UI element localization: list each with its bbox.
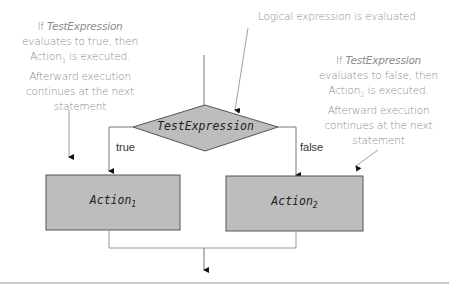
decision-label: TestExpression bbox=[133, 119, 278, 133]
callout-arrow-right bbox=[356, 150, 378, 166]
note-left-line1-pre: If bbox=[37, 20, 47, 32]
action-2-subscript: 2 bbox=[313, 201, 318, 210]
note-left: If TestExpression evaluates to true, the… bbox=[5, 19, 155, 114]
callout-arrow-decision bbox=[235, 28, 248, 110]
note-right-line6: statement bbox=[308, 133, 449, 148]
note-top-center: Logical expression is evaluated bbox=[258, 9, 448, 24]
note-right-line4: Afterward execution bbox=[308, 103, 449, 118]
action-1-label: Action1 bbox=[46, 193, 180, 209]
action-2-label: Action2 bbox=[226, 194, 363, 210]
note-right-line1-em: TestExpression bbox=[345, 54, 421, 66]
action-1-subscript: 1 bbox=[131, 200, 136, 209]
decision-label-text: TestExpression bbox=[157, 119, 254, 133]
note-left-line2: evaluates to true, then bbox=[5, 34, 155, 49]
note-left-line4: Afterward execution bbox=[5, 69, 155, 84]
note-top-center-text: Logical expression is evaluated bbox=[258, 10, 416, 22]
false-branch-label: false bbox=[300, 141, 323, 153]
bottom-divider bbox=[0, 282, 449, 284]
note-left-line3-post: is executed. bbox=[66, 50, 130, 62]
note-left-line3-pre: Action bbox=[30, 50, 62, 62]
note-right: If TestExpression evaluates to false, th… bbox=[308, 53, 449, 148]
action-2-name: Action bbox=[271, 194, 313, 208]
false-label-text: false bbox=[300, 141, 323, 153]
note-left-line5: continues at the next bbox=[5, 84, 155, 99]
note-left-line6: statement bbox=[5, 99, 155, 114]
note-right-line3-post: is executed. bbox=[364, 84, 428, 96]
merge-line bbox=[109, 230, 296, 248]
note-right-line3-pre: Action bbox=[328, 84, 360, 96]
note-right-line5: continues at the next bbox=[308, 118, 449, 133]
action-1-name: Action bbox=[90, 193, 132, 207]
note-right-line2: evaluates to false, then bbox=[308, 68, 449, 83]
true-branch-label: true bbox=[116, 141, 135, 153]
false-branch-line bbox=[278, 127, 296, 175]
true-label-text: true bbox=[116, 141, 135, 153]
note-left-line1-em: TestExpression bbox=[47, 20, 123, 32]
